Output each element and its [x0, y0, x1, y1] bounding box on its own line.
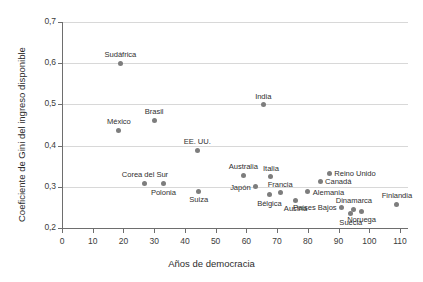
data-point[interactable] — [359, 209, 364, 214]
x-tick-mark — [277, 229, 278, 233]
data-point[interactable] — [161, 181, 166, 186]
data-point-label: Brasil — [145, 107, 164, 116]
data-point-label: Bélgica — [257, 199, 282, 208]
data-point[interactable] — [196, 189, 201, 194]
data-point[interactable] — [278, 190, 283, 195]
gridline-y — [62, 63, 408, 64]
scatter-chart-figure: 0,20,30,40,50,60,70102030405060708090100… — [0, 0, 423, 282]
data-point-label: Sudáfrica — [105, 50, 137, 59]
x-tick-mark — [123, 229, 124, 233]
x-axis-line — [62, 228, 408, 229]
y-tick-label: 0,7 — [20, 16, 56, 26]
x-tick-label: 110 — [380, 236, 420, 246]
data-point[interactable] — [118, 61, 123, 66]
x-axis-title: Años de democracia — [0, 258, 423, 269]
x-tick-mark — [308, 229, 309, 233]
data-point[interactable] — [267, 192, 272, 197]
data-point[interactable] — [142, 181, 147, 186]
data-point-label: Japón — [230, 182, 250, 191]
data-point-label: México — [107, 117, 131, 126]
gridline-y — [62, 104, 408, 105]
x-tick-mark — [185, 229, 186, 233]
x-tick-mark — [246, 229, 247, 233]
data-point[interactable] — [116, 128, 121, 133]
data-point-label: EE. UU. — [184, 137, 211, 146]
data-point-label: Australia — [229, 162, 258, 171]
data-point-label: Finlandia — [382, 191, 412, 200]
data-point-label: Italia — [263, 164, 279, 173]
data-point[interactable] — [152, 118, 157, 123]
data-point[interactable] — [339, 205, 344, 210]
y-axis-title: Coeficiente de Gini del ingreso disponib… — [16, 47, 27, 222]
data-point[interactable] — [241, 173, 246, 178]
data-point[interactable] — [261, 102, 266, 107]
y-tick-label: 0,2 — [20, 222, 56, 232]
data-point[interactable] — [268, 174, 273, 179]
data-point[interactable] — [305, 189, 310, 194]
data-point[interactable] — [253, 184, 258, 189]
data-point-label: Francia — [268, 180, 293, 189]
data-point[interactable] — [318, 179, 323, 184]
x-tick-mark — [62, 229, 63, 233]
x-tick-mark — [93, 229, 94, 233]
data-point-label: Dinamarca — [336, 196, 372, 205]
x-tick-mark — [216, 229, 217, 233]
gridline-y — [62, 146, 408, 147]
x-tick-mark — [400, 229, 401, 233]
y-axis-line — [62, 22, 63, 228]
data-point-label: Suecia — [339, 218, 362, 227]
x-tick-mark — [369, 229, 370, 233]
data-point[interactable] — [195, 148, 200, 153]
data-point-label: Corea del Sur — [122, 170, 168, 179]
data-point-label: Alemania — [313, 187, 344, 196]
x-tick-mark — [154, 229, 155, 233]
plot-area: 0,20,30,40,50,60,70102030405060708090100… — [0, 0, 423, 282]
data-point-label: India — [255, 92, 271, 101]
data-point[interactable] — [394, 202, 399, 207]
data-point-label: Canadá — [325, 177, 351, 186]
data-point-label: Polonia — [151, 188, 176, 197]
data-point-label: Países Bajos — [293, 203, 337, 212]
gridline-y — [62, 22, 408, 23]
data-point[interactable] — [327, 171, 332, 176]
data-point-label: Suiza — [189, 195, 208, 204]
x-tick-mark — [339, 229, 340, 233]
